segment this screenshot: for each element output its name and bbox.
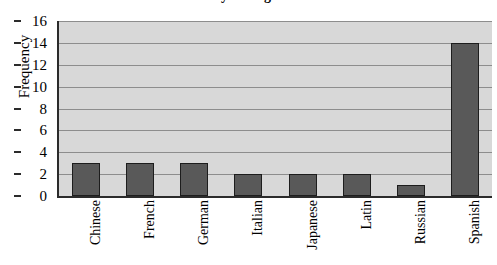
bar bbox=[289, 174, 317, 196]
y-axis-tick-label: 2 bbox=[21, 167, 47, 182]
x-axis-tick-label: Spanish bbox=[468, 200, 482, 244]
y-axis-tick-label: 14 bbox=[21, 35, 47, 50]
x-axis-label-slot: German bbox=[165, 198, 219, 265]
bar bbox=[126, 163, 154, 196]
plot-area bbox=[57, 21, 492, 198]
x-axis-tick-label: Chinese bbox=[89, 200, 103, 245]
x-axis-tick-label: Latin bbox=[360, 200, 374, 230]
x-axis-tick-labels: ChineseFrenchGermanItalianJapaneseLatinR… bbox=[57, 198, 490, 265]
y-axis-tick-label: 6 bbox=[21, 123, 47, 138]
x-axis-label-slot: Latin bbox=[328, 198, 382, 265]
y-axis-tick-label: 8 bbox=[21, 101, 47, 116]
y-axis-tick bbox=[14, 173, 21, 175]
bar-series bbox=[59, 21, 492, 196]
bar bbox=[234, 174, 262, 196]
chart-title: Studied by College Students bbox=[0, 0, 497, 4]
y-axis-tick-label: 10 bbox=[21, 79, 47, 94]
y-axis-tick bbox=[14, 64, 21, 66]
y-axis-tick-label: 12 bbox=[21, 57, 47, 72]
bar bbox=[397, 185, 425, 196]
y-axis-tick bbox=[14, 42, 21, 44]
x-axis-tick-label: Japanese bbox=[306, 200, 320, 250]
x-axis-label-slot: Russian bbox=[382, 198, 436, 265]
x-axis-label-slot: Chinese bbox=[57, 198, 111, 265]
x-axis-label-slot: Japanese bbox=[274, 198, 328, 265]
x-axis-label-slot: Spanish bbox=[436, 198, 490, 265]
y-axis-tick bbox=[14, 20, 21, 22]
bar bbox=[180, 163, 208, 196]
y-axis-tick bbox=[14, 108, 21, 110]
bar bbox=[451, 43, 479, 196]
y-axis-tick bbox=[14, 195, 21, 197]
x-axis-label-slot: French bbox=[111, 198, 165, 265]
x-axis-tick-label: Russian bbox=[414, 200, 428, 244]
bar bbox=[72, 163, 100, 196]
y-axis-tick-labels: 0246810121416 bbox=[21, 21, 47, 196]
bar bbox=[343, 174, 371, 196]
x-axis-tick-label: French bbox=[143, 200, 157, 239]
y-axis-tick-label: 16 bbox=[21, 14, 47, 29]
y-axis-tick bbox=[14, 129, 21, 131]
y-axis-tick-label: 4 bbox=[21, 145, 47, 160]
bar-chart: Studied by College Students Frequency 02… bbox=[0, 0, 497, 265]
y-axis-tick bbox=[14, 151, 21, 153]
x-axis-label-slot: Italian bbox=[219, 198, 273, 265]
x-axis-tick-label: German bbox=[197, 200, 211, 245]
y-axis-tick-label: 0 bbox=[21, 189, 47, 204]
y-axis-tick bbox=[14, 86, 21, 88]
x-axis-tick-label: Italian bbox=[251, 200, 265, 236]
